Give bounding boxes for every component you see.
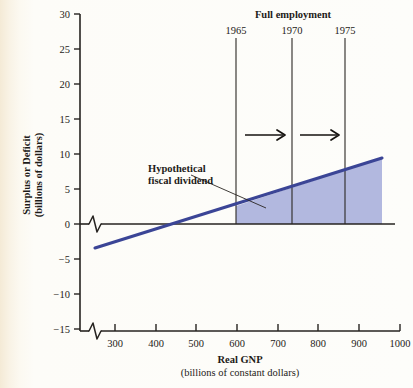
year-label-1970: 1970 (282, 25, 303, 36)
year-label-1975: 1975 (335, 25, 356, 36)
hypothetical-fiscal-dividend-area (236, 158, 382, 224)
y-tick-label-15: 15 (60, 114, 71, 125)
x-tick-label-300: 300 (107, 338, 123, 349)
x-tick-label-1000: 1000 (390, 338, 411, 349)
full-employment-label: Full employment (255, 9, 332, 20)
annotation-line-1: Hypothetical (148, 163, 206, 174)
y-tick-label-5: 5 (65, 184, 70, 195)
x-axis-break-icon (89, 323, 101, 339)
x-tick-label-900: 900 (351, 338, 367, 349)
x-tick-label-800: 800 (310, 338, 326, 349)
x-axis-title: Real GNP (217, 354, 263, 365)
y-tick-label-0: 0 (65, 219, 70, 230)
y-tick-label-20: 20 (60, 79, 71, 90)
year-label-1965: 1965 (226, 25, 247, 36)
x-axis-subtitle: (billions of constant dollars) (181, 367, 300, 379)
zero-line-axis-break-icon (89, 216, 101, 232)
x-tick-label-700: 700 (270, 338, 286, 349)
chart-figure: 30 25 20 15 10 5 0 −5 −10 −15 (0, 0, 413, 388)
y-tick-label-m15: −15 (54, 324, 70, 335)
x-tick-label-600: 600 (229, 338, 245, 349)
x-tick-label-500: 500 (188, 338, 204, 349)
y-tick-label-25: 25 (60, 44, 71, 55)
chart-svg: 30 25 20 15 10 5 0 −5 −10 −15 (0, 0, 413, 388)
y-axis-title-line-2: (billions of dollars) (33, 132, 45, 217)
annotation-line-2: fiscal dividend (148, 175, 213, 186)
y-tick-label-30: 30 (60, 9, 71, 20)
y-tick-label-10: 10 (60, 149, 71, 160)
page-background: 30 25 20 15 10 5 0 −5 −10 −15 (0, 0, 413, 388)
y-axis-title-line-1: Surplus or Deficit (21, 135, 32, 215)
y-tick-label-m5: −5 (59, 254, 70, 265)
y-tick-label-m10: −10 (54, 289, 70, 300)
x-tick-label-400: 400 (148, 338, 164, 349)
